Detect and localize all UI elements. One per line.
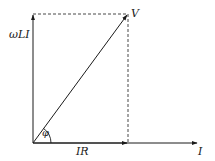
phasor-diagram-graphic xyxy=(0,0,215,161)
label-v: V xyxy=(131,8,139,19)
label-omega-l-i: ωLI xyxy=(9,29,30,40)
label-phi: φ xyxy=(42,128,49,138)
resultant-v-arrow xyxy=(33,15,127,143)
phasor-diagram: ωLI V φ IR I xyxy=(0,0,215,161)
label-i: I xyxy=(198,146,202,157)
label-ir: IR xyxy=(76,146,89,157)
